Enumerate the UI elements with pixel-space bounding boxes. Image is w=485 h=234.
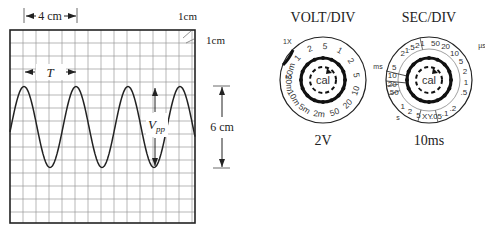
dial-label: .1 xyxy=(418,39,425,48)
corner-tick-1 xyxy=(183,31,191,38)
dial-label: .2 xyxy=(449,104,456,113)
corner-h-label: 1cm xyxy=(178,10,197,22)
unit-s-label: s xyxy=(396,114,400,121)
dial-label: 5 xyxy=(459,57,464,66)
period-label: T xyxy=(46,65,54,80)
dial-label: 5 xyxy=(416,111,421,120)
dial-label: 1 xyxy=(464,78,469,87)
dial-label: XY xyxy=(422,112,433,121)
probe-label: 1X xyxy=(283,38,292,45)
vertical-span-label: 6 cm xyxy=(210,120,234,134)
volt-div-value: 2V xyxy=(314,133,331,148)
sec-div-knob[interactable]: 21.5.2.1502010521.55102050.2.1.05XY521µs… xyxy=(373,37,485,123)
dial-label: .5 xyxy=(460,88,467,97)
dial-label: 2 xyxy=(463,67,468,76)
unit-ms-label: ms xyxy=(373,63,383,70)
sec-div-title: SEC/DIV xyxy=(402,10,456,25)
cal-label: cal xyxy=(316,74,330,86)
period-dimension: T xyxy=(25,64,76,80)
vpp-subscript: pp xyxy=(155,124,166,134)
cal-label: cal xyxy=(422,74,436,86)
dial-label: 20m xyxy=(283,74,294,91)
dial-label: 50 xyxy=(431,39,440,48)
volt-div-title: VOLT/DIV xyxy=(291,10,356,25)
vertical-dimension: 6 cm xyxy=(210,86,234,168)
corner-v-label: 1cm xyxy=(206,34,225,46)
dial-label: 50 xyxy=(390,88,399,97)
vpp-dimension: Vpp xyxy=(146,88,168,166)
horizontal-span-label: 4 cm xyxy=(38,9,62,23)
dial-label: 1 xyxy=(401,102,406,111)
dial-label: .1 xyxy=(442,109,449,118)
horizontal-dimension: 4 cm xyxy=(24,8,77,23)
dial-label: 2 xyxy=(408,107,413,116)
dial-label: 5 xyxy=(322,41,328,51)
sec-div-value: 10ms xyxy=(414,133,444,148)
oscilloscope-diagram: 4 cm 1cm 1cm T Vpp 6 cm VOLT/DIV 1X50m12… xyxy=(0,0,485,234)
dial-label: 2m xyxy=(313,108,326,119)
volt-div-knob[interactable]: 1X50m1251251020502m5m10m20mcal xyxy=(280,37,366,123)
unit-us-label: µs xyxy=(478,42,485,50)
corner-tick-2 xyxy=(186,39,194,43)
